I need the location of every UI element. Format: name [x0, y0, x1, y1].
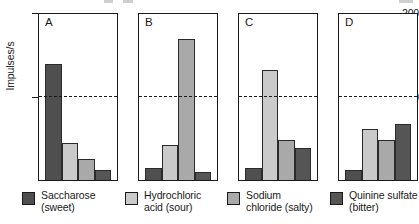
- bar-b-saccharose[interactable]: [145, 168, 162, 180]
- bar-c-saccharose[interactable]: [245, 168, 262, 180]
- y-axis-title: Impulses/s: [4, 26, 16, 106]
- panel-d: D: [338, 13, 418, 181]
- bar-d-sodium-chloride[interactable]: [378, 140, 395, 180]
- legend-item-saccharose[interactable]: Saccharose (sweet): [22, 190, 95, 213]
- panel-c-letter: C: [245, 17, 253, 29]
- legend-label-quinine-sulfate: Quinine sulfate (bitter): [349, 190, 418, 213]
- panel-c: C: [238, 13, 318, 181]
- bar-a-sodium-chloride[interactable]: [78, 159, 95, 180]
- bar-a-quinine-sulfate[interactable]: [95, 170, 112, 180]
- bar-a-hydrochloric-acid[interactable]: [62, 143, 79, 180]
- panel-b-bars: [145, 14, 211, 180]
- bar-c-hydrochloric-acid[interactable]: [262, 70, 279, 180]
- panel-b: B: [138, 13, 218, 181]
- panel-a-reference-line: [39, 96, 117, 97]
- bar-b-sodium-chloride[interactable]: [178, 39, 195, 180]
- panel-d-plot-area: [339, 14, 417, 180]
- panel-d-letter: D: [345, 17, 353, 29]
- bar-d-quinine-sulfate[interactable]: [395, 124, 412, 180]
- panel-a-plot-area: [39, 14, 117, 180]
- bar-b-quinine-sulfate[interactable]: [195, 172, 212, 180]
- panel-b-letter: B: [145, 17, 153, 29]
- legend: Saccharose (sweet) Hydrochloric acid (so…: [0, 190, 419, 224]
- bar-a-saccharose[interactable]: [45, 64, 62, 180]
- panel-c-plot-area: [239, 14, 317, 180]
- panel-a-letter: A: [45, 17, 53, 29]
- panel-b-reference-line: [139, 96, 217, 97]
- legend-swatch-quinine-sulfate-icon: [330, 192, 343, 205]
- panel-d-bars: [345, 14, 411, 180]
- bar-d-saccharose[interactable]: [345, 170, 362, 180]
- panel-a-bars: [45, 14, 111, 180]
- panel-c-reference-line: [239, 96, 317, 97]
- bar-c-sodium-chloride[interactable]: [278, 140, 295, 180]
- legend-item-hydrochloric-acid[interactable]: Hydrochloric acid (sour): [125, 190, 201, 213]
- panel-b-plot-area: [139, 14, 217, 180]
- legend-swatch-sodium-chloride-icon: [227, 192, 240, 205]
- legend-swatch-saccharose-icon: [22, 192, 35, 205]
- legend-item-sodium-chloride[interactable]: Sodium chloride (salty): [227, 190, 313, 213]
- legend-item-quinine-sulfate[interactable]: Quinine sulfate (bitter): [330, 190, 418, 213]
- panel-a: A: [38, 13, 118, 181]
- legend-label-sodium-chloride: Sodium chloride (salty): [246, 190, 313, 213]
- panel-d-reference-line: [339, 96, 417, 97]
- taste-response-figure: 200 100 Impulses/s A B: [0, 0, 419, 224]
- panel-c-bars: [245, 14, 311, 180]
- bar-c-quinine-sulfate[interactable]: [295, 148, 312, 180]
- bar-d-hydrochloric-acid[interactable]: [362, 129, 379, 180]
- bar-b-hydrochloric-acid[interactable]: [162, 145, 179, 180]
- legend-label-hydrochloric-acid: Hydrochloric acid (sour): [144, 190, 201, 213]
- legend-swatch-hydrochloric-acid-icon: [125, 192, 138, 205]
- scan-edge-artifacts: [0, 0, 419, 8]
- legend-label-saccharose: Saccharose (sweet): [41, 190, 95, 213]
